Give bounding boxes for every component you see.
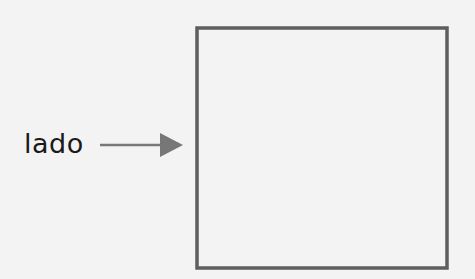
square-shape xyxy=(197,28,447,268)
diagram-canvas xyxy=(0,0,475,279)
arrow-icon xyxy=(100,133,183,157)
